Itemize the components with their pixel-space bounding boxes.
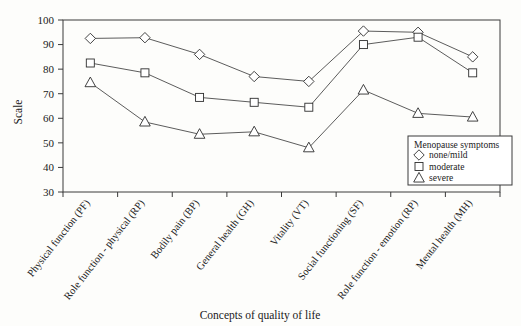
chart-legend: Menopause symptoms none/mildmoderateseve…: [408, 136, 512, 185]
y-axis: 30405060708090100: [38, 14, 64, 198]
x-axis-category-label: Vitality (VT): [268, 197, 312, 248]
line-chart: 30405060708090100 Scale Physical functio…: [0, 0, 521, 326]
square-marker-icon: [196, 93, 204, 101]
y-axis-tick-label: 100: [38, 14, 55, 26]
diamond-marker-icon: [194, 49, 204, 59]
triangle-marker-icon: [467, 111, 478, 121]
data-series-group: [85, 26, 478, 152]
chart-figure: 30405060708090100 Scale Physical functio…: [0, 0, 521, 326]
legend-title: Menopause symptoms: [414, 140, 500, 150]
diamond-marker-icon: [467, 52, 477, 62]
diamond-marker-icon: [140, 32, 150, 42]
triangle-marker-icon: [413, 108, 424, 118]
x-axis-category-label-text: Bodily pain (BP): [148, 197, 202, 261]
legend-item: moderate: [415, 162, 464, 172]
square-marker-icon: [414, 33, 422, 41]
square-marker-icon: [305, 103, 313, 111]
diamond-marker-icon: [85, 33, 95, 43]
diamond-marker-icon: [249, 71, 259, 81]
square-marker-icon: [141, 69, 149, 77]
square-marker-icon: [415, 163, 423, 171]
legend-item-label: none/mild: [429, 150, 468, 160]
x-axis-category-label: General health (GH): [194, 197, 257, 273]
x-axis-category-labels: Physical function (PF)Role function - ph…: [25, 197, 475, 302]
y-axis-tick-label: 30: [43, 186, 55, 198]
x-axis-category-label-text: Mental health (MH): [414, 197, 476, 271]
square-marker-icon: [469, 69, 477, 77]
y-axis-tick-label: 80: [43, 63, 55, 75]
data-series: [86, 33, 476, 111]
legend-item-label: severe: [429, 173, 453, 183]
y-axis-tick-label: 70: [43, 88, 55, 100]
y-axis-tick-label: 60: [43, 112, 55, 124]
x-axis-category-label-text: Vitality (VT): [268, 197, 312, 248]
triangle-marker-icon: [85, 77, 96, 87]
x-axis-category-label: Mental health (MH): [414, 197, 476, 271]
triangle-marker-icon: [358, 84, 369, 94]
triangle-marker-icon: [140, 116, 151, 126]
square-marker-icon: [86, 59, 94, 67]
legend-item-label: moderate: [429, 162, 464, 172]
square-marker-icon: [359, 41, 367, 49]
y-axis-tick-label: 50: [43, 137, 55, 149]
x-axis-category-label: Bodily pain (BP): [148, 197, 202, 261]
triangle-marker-icon: [249, 126, 260, 136]
y-axis-tick-label: 90: [43, 38, 55, 50]
square-marker-icon: [250, 98, 258, 106]
x-axis: [63, 192, 500, 197]
x-axis-category-label-text: General health (GH): [194, 197, 257, 273]
y-axis-title: Scale: [12, 100, 24, 125]
y-axis-tick-label: 40: [43, 161, 55, 173]
legend-item: severe: [414, 172, 454, 183]
x-axis-title: Concepts of quality of life: [200, 309, 321, 322]
